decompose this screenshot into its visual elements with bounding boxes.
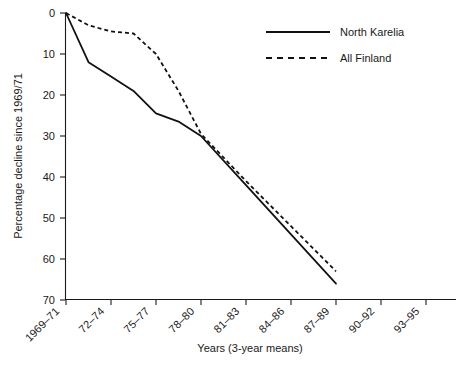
x-tick-label-5: 81–83 xyxy=(211,305,241,335)
chart-figure: 0 10 20 30 40 50 60 70 Percentage declin… xyxy=(0,0,464,365)
y-tick-label-60: 60 xyxy=(43,253,55,265)
legend-label-all-finland: All Finland xyxy=(340,52,391,64)
y-tick-label-0: 0 xyxy=(49,7,55,19)
x-axis-title: Years (3-year means) xyxy=(197,342,302,354)
x-tick-label-1: 1969–71 xyxy=(23,305,62,344)
x-tick-label-8: 90–92 xyxy=(346,305,376,335)
y-tick-label-30: 30 xyxy=(43,130,55,142)
series-line-all-finland xyxy=(66,13,336,271)
y-tick-label-70: 70 xyxy=(43,294,55,306)
y-tick-label-40: 40 xyxy=(43,171,55,183)
y-axis-ticks xyxy=(60,13,66,300)
x-tick-label-6: 84–86 xyxy=(256,305,286,335)
y-tick-label-50: 50 xyxy=(43,212,55,224)
x-tick-label-4: 78–80 xyxy=(166,305,196,335)
y-tick-label-10: 10 xyxy=(43,48,55,60)
x-tick-label-2: 72–74 xyxy=(76,305,106,335)
legend-label-north-karelia: North Karelia xyxy=(340,26,405,38)
x-tick-label-3: 75–77 xyxy=(121,305,151,335)
y-axis-title: Percentage decline since 1969/71 xyxy=(12,73,24,239)
line-chart-svg: 0 10 20 30 40 50 60 70 Percentage declin… xyxy=(0,0,464,365)
x-axis-ticks xyxy=(66,300,426,306)
x-tick-label-9: 93–95 xyxy=(391,305,421,335)
y-tick-label-20: 20 xyxy=(43,89,55,101)
chart-legend: North Karelia All Finland xyxy=(266,26,405,64)
x-tick-label-7: 87–89 xyxy=(301,305,331,335)
series-line-north-karelia xyxy=(66,13,336,284)
